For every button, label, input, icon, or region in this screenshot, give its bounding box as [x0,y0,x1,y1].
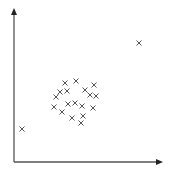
x-marker-icon [73,101,78,106]
x-marker-icon [137,41,142,46]
x-marker-icon [74,79,79,84]
scatter-plot [0,0,170,174]
x-marker-icon [54,95,59,100]
y-axis-arrow-icon [11,8,17,15]
x-marker-icon [66,102,71,107]
data-points [20,41,142,132]
x-marker-icon [20,127,25,132]
x-marker-icon [94,94,99,99]
x-marker-icon [80,104,85,109]
x-marker-icon [81,114,86,119]
x-marker-icon [88,93,93,98]
x-marker-icon [65,89,70,94]
x-marker-icon [91,106,96,111]
x-marker-icon [83,88,88,93]
x-marker-icon [60,110,65,115]
axes [11,8,163,165]
x-marker-icon [63,81,68,86]
x-marker-icon [52,105,57,110]
x-marker-icon [92,83,97,88]
x-marker-icon [58,90,63,95]
x-marker-icon [70,116,75,121]
x-axis-arrow-icon [156,159,163,165]
x-marker-icon [79,121,84,126]
